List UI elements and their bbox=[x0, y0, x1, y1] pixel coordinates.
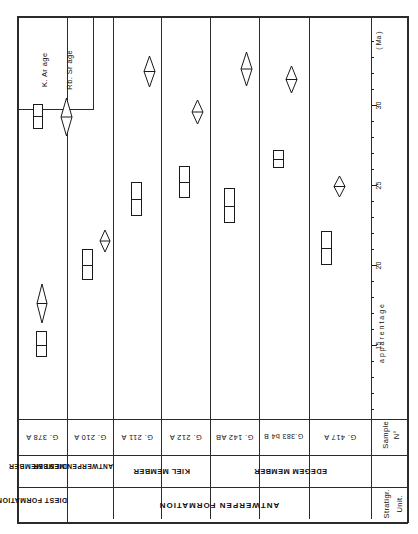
k-ar-center-line bbox=[34, 116, 42, 117]
axis-tick-minor bbox=[371, 409, 374, 410]
rb-sr-symbol bbox=[143, 56, 156, 87]
sample-cell: G.383 b4 B bbox=[258, 433, 309, 440]
axis-tick-minor bbox=[371, 233, 374, 234]
axis-tick-minor bbox=[371, 329, 374, 330]
k-ar-center-line bbox=[37, 345, 46, 346]
stratigraphy-row-header-line1: Stratigr. bbox=[383, 480, 391, 528]
k-ar-center-line bbox=[132, 199, 141, 200]
rb-sr-symbol bbox=[191, 100, 204, 124]
legend-box-bottom-border bbox=[17, 109, 94, 110]
stratigraphy-row-header-line2: Unit. bbox=[396, 480, 404, 528]
frame-top-border bbox=[17, 16, 408, 18]
axis-tick-minor bbox=[371, 137, 374, 138]
k-ar-center-line bbox=[274, 159, 283, 160]
frame-left-border bbox=[17, 16, 19, 523]
column-divider-6 bbox=[309, 16, 310, 519]
axis-tick-minor bbox=[371, 297, 374, 298]
member-divider-a bbox=[67, 455, 68, 487]
axis-tick-minor bbox=[371, 121, 374, 122]
column-divider-2 bbox=[113, 16, 114, 519]
k-ar-symbol bbox=[179, 166, 190, 198]
axis-tick-minor bbox=[371, 153, 374, 154]
member-label-antwerpen: ANTWERPEN MEMBER bbox=[33, 463, 113, 470]
column-divider-4 bbox=[210, 16, 211, 519]
axis-tick-minor bbox=[371, 57, 374, 58]
legend-box-right-border bbox=[93, 16, 94, 109]
sample-row-header-line2: N° bbox=[393, 415, 401, 455]
axis-tick-minor bbox=[371, 361, 374, 362]
formation-label-diest: DIEST FORMATION bbox=[0, 497, 67, 504]
sample-cell: G. 417 A bbox=[309, 433, 371, 441]
formation-cell-antwerpen: ANTWERPEN FORMATION bbox=[67, 501, 371, 509]
member-cell-edegem: EDEGEM MEMBER bbox=[210, 467, 371, 475]
sample-row-header-line1: Sample bbox=[382, 415, 390, 455]
axis-tick-minor bbox=[371, 313, 374, 314]
axis-title: a p p a r e n t a g e bbox=[378, 283, 385, 385]
axis-tick-minor bbox=[371, 89, 374, 90]
sample-member-divider bbox=[17, 455, 408, 456]
k-ar-symbol bbox=[273, 150, 284, 168]
member-label-kiel: KIEL MEMBER bbox=[133, 467, 190, 476]
geochronology-figure: K. Ar age Rb. Sr age 30 25 20 15 ( Ma ) … bbox=[0, 0, 418, 534]
formation-cell-diest: DIEST FORMATION bbox=[17, 494, 67, 505]
axis-tick-label-30: 30 bbox=[375, 96, 382, 116]
sample-cell: G. 212 A bbox=[161, 433, 210, 441]
column-divider-3 bbox=[161, 16, 162, 519]
axis-tick-minor bbox=[371, 393, 374, 394]
plot-table-divider bbox=[17, 419, 408, 420]
sample-cell: G. 210 A bbox=[67, 433, 113, 441]
k-ar-symbol bbox=[224, 188, 235, 223]
member-cell-antwerpen: ANTWERPEN MEMBER bbox=[67, 461, 113, 471]
member-formation-divider bbox=[17, 487, 408, 488]
axis-tick-minor bbox=[371, 73, 374, 74]
k-ar-symbol bbox=[321, 231, 332, 265]
k-ar-center-line bbox=[180, 182, 189, 183]
axis-unit-label: ( Ma ) bbox=[375, 25, 382, 57]
k-ar-center-line bbox=[225, 206, 234, 207]
rb-sr-symbol bbox=[333, 176, 346, 197]
axis-tick-minor bbox=[371, 201, 374, 202]
axis-tick-minor bbox=[371, 281, 374, 282]
rb-sr-symbol bbox=[99, 230, 111, 252]
frame-bottom-border bbox=[17, 522, 408, 524]
k-ar-symbol bbox=[131, 182, 142, 216]
member-label-edegem: EDEGEM MEMBER bbox=[254, 467, 327, 476]
column-divider-5 bbox=[259, 16, 260, 519]
legend-label-k-ar: K. Ar age bbox=[41, 25, 49, 115]
rb-sr-symbol bbox=[240, 52, 253, 86]
axis-tick-minor bbox=[371, 217, 374, 218]
axis-tick-minor bbox=[371, 249, 374, 250]
axis-tick-minor bbox=[371, 169, 374, 170]
k-ar-symbol bbox=[82, 249, 93, 280]
sample-cell: G. 378 A bbox=[17, 433, 67, 441]
axis-tick-minor bbox=[371, 377, 374, 378]
axis-tick-label-20: 20 bbox=[375, 256, 382, 276]
sample-cell: G. 142 AB bbox=[210, 433, 259, 441]
rb-sr-symbol bbox=[285, 66, 298, 93]
axis-tick-label-25: 25 bbox=[375, 176, 382, 196]
rb-sr-symbol bbox=[36, 284, 48, 323]
k-ar-center-line bbox=[83, 265, 92, 266]
sample-cell: G. 211 A bbox=[113, 433, 161, 441]
k-ar-symbol bbox=[36, 331, 47, 357]
member-cell-kiel: KIEL MEMBER bbox=[113, 467, 210, 475]
k-ar-center-line bbox=[322, 248, 331, 249]
legend-label-rb-sr: Rb. Sr age bbox=[66, 25, 74, 115]
formation-label-antwerpen: ANTWERPEN FORMATION bbox=[159, 501, 280, 510]
frame-right-border bbox=[407, 16, 409, 523]
axis-spine bbox=[371, 16, 372, 519]
